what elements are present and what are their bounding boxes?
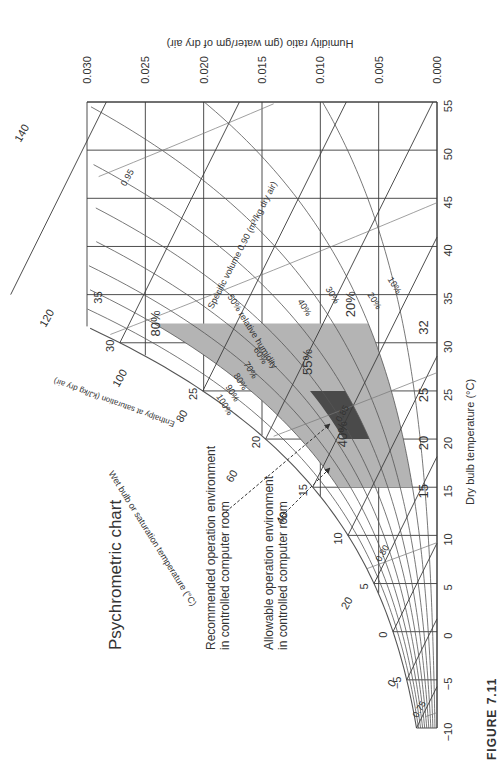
allowable-note-line1: Allowable operation environment (262, 476, 276, 650)
allowable-note-line2: in controlled computer room (276, 476, 290, 650)
dry-bulb-tick-label: 45 (442, 196, 454, 208)
saturation-temp-label: 5 (358, 583, 370, 589)
dry-bulb-tick-label: 25 (442, 389, 454, 401)
humidity-tick-label: 0.025 (139, 56, 151, 84)
chart-title: Psychrometric chart (106, 500, 126, 650)
dry-bulb-tick-label: 40 (442, 244, 454, 256)
saturation-temp-label: 20 (250, 436, 262, 448)
enthalpy-label: 120 (37, 307, 57, 329)
recommended-note: Recommended operation environment in con… (204, 446, 232, 650)
allowable-note: Allowable operation environment in contr… (262, 476, 290, 650)
recommended-note-line2: in controlled computer room (218, 446, 232, 650)
allowable-rh-high-label: 80% (148, 310, 163, 336)
dry-bulb-tick-label: 0 (442, 633, 454, 639)
dry-bulb-tick-label: −10 (442, 723, 454, 742)
recommended-max-temp-label: 25 (416, 388, 431, 402)
figure-label: FIGURE 7.11 (485, 678, 499, 760)
x-axis-title: Dry bulb temperature (°C) (464, 379, 476, 505)
specific-volume-label: 0.80 (374, 543, 391, 563)
operation-regions (154, 324, 413, 488)
recommended-rh-low-label: 40% (335, 421, 350, 447)
enthalpy-label: 100 (110, 367, 130, 389)
dry-bulb-tick-label: 30 (442, 341, 454, 353)
allowable-max-temp-label: 32 (416, 320, 431, 334)
dry-bulb-tick-label: 15 (442, 485, 454, 497)
dry-bulb-tick-label: 5 (442, 584, 454, 590)
specific-volume-label: 0.95 (119, 167, 136, 187)
wet-bulb-line (120, 102, 240, 343)
saturation-temp-label: 10 (332, 532, 344, 544)
allowable-rh-low-label: 20% (343, 291, 358, 317)
specific-volume-line (425, 713, 437, 717)
y-axis-title: Humidity ratio (gm water/gm of dry air) (166, 38, 353, 50)
dry-bulb-tick-label: 20 (442, 437, 454, 449)
humidity-tick-label: 0.015 (256, 56, 268, 84)
rh-label: 40% (296, 297, 314, 318)
enthalpy-label: 140 (12, 122, 32, 144)
humidity-tick-label: 0.010 (314, 56, 326, 84)
wet-bulb-line (407, 619, 437, 680)
humidity-tick-label: 0.005 (373, 56, 385, 84)
saturation-temp-label: 25 (187, 388, 199, 400)
saturation-temp-label: 0 (377, 632, 389, 638)
rh-label: 10% (386, 275, 404, 296)
dry-bulb-tick-label: −5 (442, 678, 454, 691)
specific-volume-line (99, 104, 274, 177)
recommended-min-temp-label: 20 (416, 436, 431, 450)
allowable-region (154, 324, 413, 488)
rh-label: 20% (366, 290, 384, 311)
humidity-tick-label: 0.020 (198, 56, 210, 84)
dry-bulb-tick-label: 35 (442, 292, 454, 304)
saturation-temp-label: 30 (104, 340, 116, 352)
dry-bulb-tick-label: 10 (442, 533, 454, 545)
recommended-note-line1: Recommended operation environment (204, 446, 218, 650)
dry-bulb-tick-label: 55 (442, 100, 454, 112)
saturation-temp-label: 35 (92, 291, 104, 303)
enthalpy-label: 20 (338, 595, 355, 612)
allowable-min-temp-label: 15 (416, 484, 431, 498)
dry-bulb-tick-label: 50 (442, 148, 454, 160)
specific-volume-axis-label: Specific volume 0.90 (m³/kg dry air) (206, 180, 279, 311)
recommended-rh-high-label: 55% (300, 349, 315, 375)
humidity-tick-label: 0.000 (431, 56, 443, 84)
humidity-tick-label: 0.030 (81, 56, 93, 84)
